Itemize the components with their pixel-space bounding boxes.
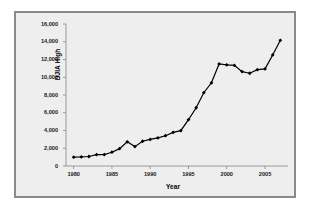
data-point-marker <box>225 63 229 67</box>
y-tick-label: 14,000 <box>24 38 58 44</box>
x-tick-label: 2005 <box>250 171 280 177</box>
x-tick-label: 1995 <box>173 171 203 177</box>
y-tick-label: 8,000 <box>24 92 58 98</box>
y-tick-label: 2,000 <box>24 145 58 151</box>
y-tick-label: 4,000 <box>24 127 58 133</box>
y-tick-label: 6,000 <box>24 109 58 115</box>
data-point-marker <box>148 137 152 141</box>
x-tick-label: 1985 <box>97 171 127 177</box>
y-tick-label: 10,000 <box>24 74 58 80</box>
data-point-marker <box>217 62 221 66</box>
data-point-marker <box>87 155 91 159</box>
data-point-marker <box>164 134 168 138</box>
data-point-markers <box>72 38 282 159</box>
chart-figure-frame: DJIA High Year 02,0004,0006,0008,00010,0… <box>14 11 296 198</box>
data-point-marker <box>79 155 83 159</box>
data-point-marker <box>95 153 99 157</box>
data-point-marker <box>102 153 106 157</box>
data-point-marker <box>248 71 252 75</box>
axis-lines <box>66 24 288 166</box>
y-tick-label: 0 <box>24 163 58 169</box>
data-point-marker <box>156 136 160 140</box>
data-point-marker <box>110 150 114 154</box>
x-axis-title: Year <box>68 183 278 190</box>
data-point-marker <box>171 130 175 134</box>
x-tick-label: 2000 <box>212 171 242 177</box>
data-series-line <box>74 40 281 157</box>
x-tick-label: 1980 <box>59 171 89 177</box>
x-tick-label: 1990 <box>135 171 165 177</box>
y-tick-label: 16,000 <box>24 21 58 27</box>
data-point-marker <box>255 68 259 72</box>
data-point-marker <box>72 155 76 159</box>
y-tick-label: 12,000 <box>24 56 58 62</box>
